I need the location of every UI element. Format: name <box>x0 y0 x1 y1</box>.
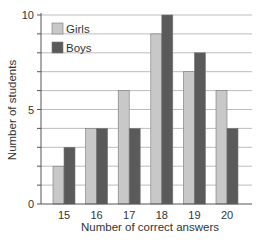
x-tick-label: 15 <box>58 209 70 221</box>
bar-boys-17 <box>129 128 140 204</box>
x-tick-label: 17 <box>123 209 135 221</box>
bar-boys-18 <box>162 15 173 204</box>
x-tick-label: 16 <box>90 209 102 221</box>
legend-label-girls: Girls <box>66 23 90 35</box>
bar-girls-15 <box>53 166 64 204</box>
y-tick-label: 5 <box>28 104 34 116</box>
bar-girls-20 <box>216 91 227 204</box>
legend-label-boys: Boys <box>66 42 92 54</box>
bar-boys-16 <box>97 128 108 204</box>
y-axis-label: Number of students <box>6 60 18 161</box>
bar-chart: 0510151617181920 GirlsBoys Number of cor… <box>0 0 262 245</box>
x-axis-label: Number of correct answers <box>81 221 219 233</box>
bar-girls-19 <box>183 72 194 204</box>
legend-swatch-girls <box>52 23 63 34</box>
x-tick-label: 18 <box>156 209 168 221</box>
legend: GirlsBoys <box>52 23 92 54</box>
bar-girls-17 <box>118 91 129 204</box>
x-tick-label: 20 <box>221 209 233 221</box>
bar-boys-15 <box>64 147 75 204</box>
y-tick-label: 10 <box>22 9 34 21</box>
bar-girls-18 <box>151 34 162 204</box>
legend-swatch-boys <box>52 42 63 53</box>
bar-boys-19 <box>194 53 205 204</box>
bar-girls-16 <box>86 128 97 204</box>
bar-boys-20 <box>227 128 238 204</box>
x-tick-label: 19 <box>188 209 200 221</box>
y-tick-label: 0 <box>28 198 34 210</box>
